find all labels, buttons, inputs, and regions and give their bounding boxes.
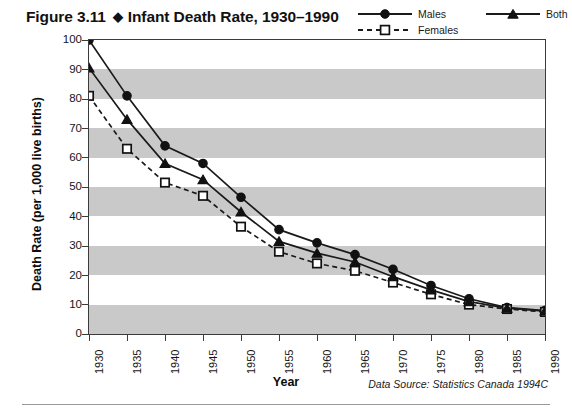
x-axis-tick-mark	[469, 335, 470, 341]
x-axis-tick-label: 1970	[398, 360, 409, 374]
y-axis-tick-mark	[82, 128, 88, 129]
y-axis-tick-mark	[82, 216, 88, 217]
x-axis-tick-mark	[545, 335, 546, 341]
x-axis-tick-mark	[355, 335, 356, 341]
x-axis-tick-mark	[89, 335, 90, 341]
y-axis-tick-mark	[82, 40, 88, 41]
x-axis-tick-mark	[165, 335, 166, 341]
x-axis-tick-mark	[241, 335, 242, 341]
x-axis-tick-mark	[507, 335, 508, 341]
source-note: Data Source: Statistics Canada 1994C	[368, 378, 548, 390]
x-axis-tick-mark	[203, 335, 204, 341]
y-axis-tick-mark	[82, 99, 88, 100]
y-axis-tick-mark	[82, 187, 88, 188]
x-axis-tick-label: 1990	[550, 360, 561, 374]
x-axis-tick-mark	[393, 335, 394, 341]
x-axis-tick-mark	[127, 335, 128, 341]
x-axis-tick-label: 1950	[246, 360, 257, 374]
x-axis-tick-label: 1980	[474, 360, 485, 374]
x-axis-tick-label: 1940	[170, 360, 181, 374]
x-axis-tick-label: 1935	[132, 360, 143, 374]
x-axis-tick-label: 1955	[284, 360, 295, 374]
x-axis-tick-label: 1965	[360, 360, 371, 374]
x-axis-tick-mark	[431, 335, 432, 341]
x-axis-tick-label: 1975	[436, 360, 447, 374]
x-axis-tick-label: 1945	[208, 360, 219, 374]
x-axis-tick-mark	[317, 335, 318, 341]
x-axis-tick-label: 1930	[94, 360, 105, 374]
bottom-divider	[22, 404, 550, 405]
x-axis-tick-label: 1985	[512, 360, 523, 374]
y-axis-tick-mark	[82, 246, 88, 247]
x-axis-tick-label: 1960	[322, 360, 333, 374]
y-axis-tick-mark	[82, 275, 88, 276]
y-axis-tick-mark	[82, 69, 88, 70]
x-axis-tick-mark	[279, 335, 280, 341]
y-axis-tick-mark	[82, 334, 88, 335]
y-axis-tick-mark	[82, 304, 88, 305]
x-axis-ticks: 1930193519401945195019551960196519701975…	[0, 0, 572, 419]
y-axis-tick-mark	[82, 157, 88, 158]
